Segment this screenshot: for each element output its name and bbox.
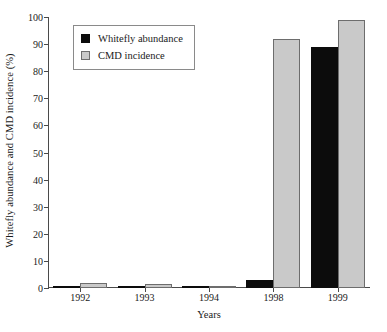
bar-chart-figure: Whitefly abundance and CMD incidence (%)… (0, 0, 387, 332)
bar-whitefly-1993 (118, 286, 145, 288)
y-axis-tick-label: 70 (33, 93, 43, 104)
y-axis-tick (44, 180, 48, 181)
y-axis-tick-label: 100 (28, 12, 43, 23)
y-axis-tick-label: 40 (33, 174, 43, 185)
gray-square-icon (81, 51, 90, 60)
x-axis-tick-label: 1994 (199, 292, 219, 303)
x-axis-tick-label: 1993 (135, 292, 155, 303)
bar-whitefly-1994 (182, 286, 209, 288)
y-axis-tick (44, 261, 48, 262)
y-axis-tick-label: 90 (33, 39, 43, 50)
x-axis-tick-label: 1992 (70, 292, 90, 303)
legend-entry-whitefly: Whitefly abundance (81, 30, 183, 47)
legend-entry-cmd: CMD incidence (81, 47, 183, 64)
x-axis-tick-label: 1998 (263, 292, 283, 303)
bar-whitefly-1998 (246, 280, 273, 288)
y-axis-tick (44, 153, 48, 154)
x-axis-tick-label: 1999 (328, 292, 348, 303)
bar-group (246, 17, 300, 288)
black-square-icon (81, 34, 90, 43)
y-axis-tick (44, 44, 48, 45)
y-axis-tick (44, 98, 48, 99)
y-axis-tick-labels: 0102030405060708090100 (18, 0, 45, 332)
bar-group (311, 17, 365, 288)
y-axis-tick (44, 17, 48, 18)
y-axis-tick (44, 71, 48, 72)
bar-whitefly-1999 (311, 47, 338, 288)
y-axis-tick-label: 10 (33, 255, 43, 266)
y-axis-tick-label: 50 (33, 147, 43, 158)
y-axis-tick-label: 20 (33, 228, 43, 239)
bar-whitefly-1992 (53, 286, 80, 288)
y-axis-tick (44, 234, 48, 235)
y-axis-tick (44, 288, 48, 289)
x-axis-title: Years (48, 309, 370, 320)
y-axis-tick (44, 207, 48, 208)
y-axis-title: Whitefly abundance and CMD incidence (%) (0, 0, 18, 300)
y-axis-title-text: Whitefly abundance and CMD incidence (%) (4, 53, 15, 247)
y-axis-tick (44, 125, 48, 126)
chart-legend: Whitefly abundance CMD incidence (73, 25, 195, 70)
bar-cmd-1994 (209, 286, 236, 288)
legend-label-cmd: CMD incidence (98, 50, 165, 61)
bar-cmd-1998 (273, 39, 300, 288)
legend-label-whitefly: Whitefly abundance (98, 33, 183, 44)
bar-cmd-1992 (80, 283, 107, 288)
y-axis-tick-label: 0 (38, 283, 43, 294)
bar-cmd-1999 (338, 20, 365, 288)
y-axis-tick-label: 60 (33, 120, 43, 131)
y-axis-tick-label: 30 (33, 201, 43, 212)
x-axis-tick-labels: 19921993199419981999 (48, 292, 370, 308)
y-axis-tick-label: 80 (33, 66, 43, 77)
bar-cmd-1993 (145, 284, 172, 288)
